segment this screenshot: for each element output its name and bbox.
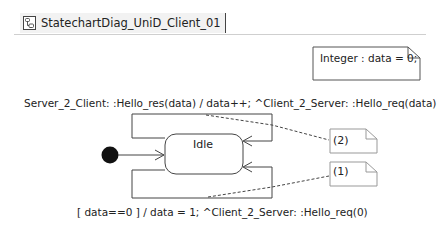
- initial-transition[interactable]: [118, 150, 164, 160]
- transition-1-label[interactable]: [ data==0 ] / data = 1; ^Client_2_Server…: [77, 206, 368, 218]
- variable-note-text: Integer : data = 0;: [320, 52, 417, 64]
- statechart-canvas: [0, 0, 441, 232]
- note-1-anchor-line: [208, 176, 329, 197]
- note-1-text: (1): [333, 165, 349, 178]
- state-idle-name: Idle: [193, 138, 213, 151]
- note-2-text: (2): [333, 134, 349, 147]
- initial-pseudostate-icon[interactable]: [102, 147, 119, 164]
- transition-2-label[interactable]: Server_2_Client: :Hello_res(data) / data…: [24, 97, 436, 109]
